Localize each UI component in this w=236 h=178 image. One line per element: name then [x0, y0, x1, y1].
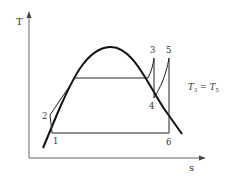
process-superheat-3 — [148, 58, 154, 78]
point-label-1: 1 — [53, 136, 58, 146]
annotation-eq: = — [197, 82, 210, 92]
point-label-2: 2 — [42, 111, 47, 121]
point-label-6: 6 — [166, 137, 171, 147]
point-labels: 1 2 3 4 5 6 — [42, 45, 171, 147]
x-axis-label: s — [189, 162, 194, 173]
ts-diagram: T s 1 2 3 4 5 6 T3 = T5 — [0, 0, 236, 178]
process-2-heat — [50, 78, 75, 115]
axes: T s — [16, 11, 206, 173]
x-axis-arrow-icon — [199, 156, 206, 161]
y-axis-label: T — [16, 16, 23, 27]
point-label-4: 4 — [149, 101, 154, 111]
point-label-5: 5 — [166, 45, 171, 55]
point-label-3: 3 — [150, 45, 155, 55]
temperature-equality-annotation: T3 = T5 — [188, 82, 219, 93]
cycle-path — [50, 58, 169, 133]
process-4-5 — [154, 58, 169, 98]
annotation-rhs-sub: 5 — [215, 87, 219, 93]
y-axis-arrow-icon — [27, 11, 32, 18]
